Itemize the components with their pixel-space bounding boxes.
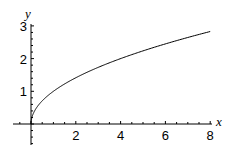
x-tick-label: 4 (117, 128, 124, 143)
y-tick-label: 1 (20, 84, 27, 99)
axes (13, 24, 212, 145)
y-tick-label: 2 (20, 52, 27, 67)
x-axis-label: x (215, 114, 222, 129)
x-tick-label: 6 (162, 128, 169, 143)
y-axis-label: y (23, 6, 31, 21)
plot: 2468 123 x y (0, 0, 236, 153)
x-tick-labels: 2468 (72, 128, 214, 143)
y-tick-label: 3 (20, 19, 27, 34)
y-tick-labels: 123 (20, 19, 27, 99)
sqrt-curve (31, 32, 210, 124)
x-tick-label: 2 (72, 128, 79, 143)
x-tick-label: 8 (207, 128, 214, 143)
